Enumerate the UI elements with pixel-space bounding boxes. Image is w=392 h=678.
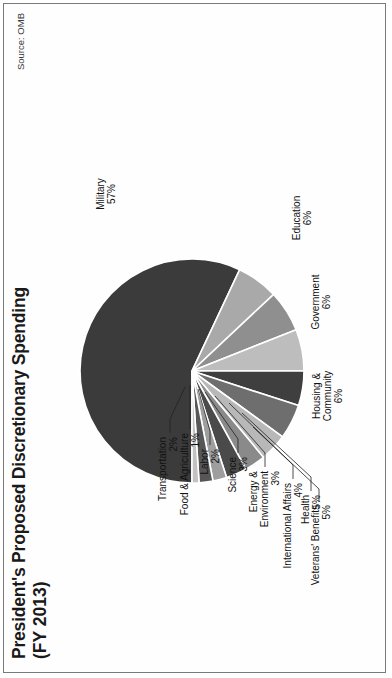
callout-international-affairs-label: International Affairs: [282, 483, 293, 609]
callout-government-label: Government: [310, 257, 321, 347]
callout-government: Government 6%: [310, 257, 332, 347]
callout-transportation: Transportation 2%: [157, 437, 179, 585]
callout-education-label: Education: [291, 173, 302, 263]
callout-veterans-benefits-value: 5%: [321, 505, 332, 615]
callout-government-value: 6%: [321, 257, 332, 347]
page-frame: President's Proposed Discretionary Spend…: [3, 3, 386, 673]
callout-military: Military 57%: [95, 149, 117, 239]
callout-energy-environment: Energy & Environment 3%: [248, 471, 282, 589]
callout-military-label: Military: [95, 149, 106, 239]
callout-health-label: Health: [300, 495, 311, 559]
callout-energy-environment-value: 3%: [270, 471, 281, 589]
callout-transportation-label: Transportation: [157, 437, 168, 585]
callout-science: Science 3%: [227, 457, 249, 573]
callout-science-label: Science: [227, 457, 238, 573]
callout-education: Education 6%: [291, 173, 313, 263]
callout-housing-community-label-line2: Community: [322, 350, 333, 442]
callout-housing-community: Housing & Community 6%: [311, 350, 345, 442]
callout-labor-value: 2%: [210, 449, 221, 567]
callout-education-value: 6%: [302, 173, 313, 263]
callout-energy-environment-label-line1: Energy &: [248, 471, 259, 589]
callout-transportation-value: 2%: [168, 437, 179, 585]
callout-energy-environment-label-line2: Environment: [259, 471, 270, 589]
callout-military-value: 57%: [106, 149, 117, 239]
callout-labor-label: Labor: [199, 449, 210, 567]
callout-veterans-benefits: Veterans' Benefits 5%: [310, 505, 332, 615]
callout-food-agriculture: Food & Agriculture 1%: [179, 433, 201, 585]
callout-housing-community-value: 6%: [333, 350, 344, 442]
callout-food-agriculture-label: Food & Agriculture: [179, 433, 190, 585]
callout-veterans-benefits-label: Veterans' Benefits: [310, 505, 321, 615]
rotated-figure-canvas: President's Proposed Discretionary Spend…: [0, 0, 391, 677]
callout-labor: Labor 2%: [199, 449, 221, 567]
callout-housing-community-label-line1: Housing &: [311, 350, 322, 442]
